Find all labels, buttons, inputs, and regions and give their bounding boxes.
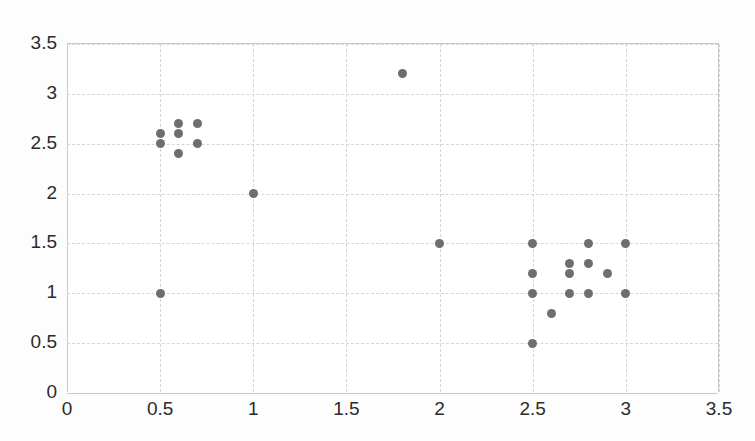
- x-axis-tick-labels: 00.511.522.533.5: [0, 0, 755, 441]
- x-tick-label: 2: [434, 398, 445, 420]
- x-tick-label: 3: [621, 398, 632, 420]
- x-tick-label: 2.5: [519, 398, 545, 420]
- x-tick-label: 3.5: [706, 398, 732, 420]
- x-tick-label: 0: [62, 398, 73, 420]
- x-tick-label: 0.5: [147, 398, 173, 420]
- x-tick-label: 1.5: [333, 398, 359, 420]
- x-tick-label: 1: [248, 398, 259, 420]
- scatter-chart: 00.511.522.533.5 00.511.522.533.5: [0, 0, 755, 441]
